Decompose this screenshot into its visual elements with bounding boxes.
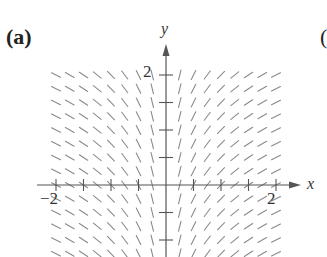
slope-segment [136,167,140,176]
slope-segment [151,194,153,204]
slope-segment [122,236,128,244]
slope-segment [93,196,101,202]
slope-segment [52,128,61,132]
slope-segment [93,113,101,119]
slope-segment [179,139,181,149]
slope-segment [93,127,101,133]
slope-segment [191,222,195,231]
slope-segment [93,154,101,160]
slope-segment [107,154,114,161]
slope-segment [204,167,210,175]
slope-segment [65,224,74,229]
slope-segment [136,236,140,245]
slope-segment [151,125,153,135]
slope-segment [231,196,239,202]
slope-segment [231,141,239,147]
slope-segment [52,210,61,214]
slope-segment [217,85,224,92]
slope-segment [93,237,101,243]
slope-segment [272,142,281,146]
slope-segment [272,128,281,132]
slope-segment [93,99,101,105]
x-axis-label: x [307,175,314,193]
slope-segment [244,86,252,92]
slope-segment [79,210,87,216]
slope-segment [258,169,267,174]
slope-segment [93,223,101,229]
slope-segment [107,168,114,175]
slope-segment [217,140,224,147]
slope-segment [217,71,224,78]
slope-segment [65,155,74,160]
slope-segment [93,168,101,174]
slope-segment [204,140,210,148]
slope-segment [107,126,114,133]
slope-segment [151,235,153,245]
slope-segment [204,154,210,162]
slope-segment [191,153,195,162]
slope-segment [231,72,239,78]
slope-segment [204,195,210,203]
slope-segment [122,85,128,93]
slope-segment [191,249,195,257]
next-panel-label-partial: ( [320,24,327,50]
slope-segment [258,196,267,201]
slope-segment [122,71,128,79]
slope-segment [179,70,181,80]
slope-segment [151,84,153,94]
slope-segment [217,168,224,175]
slope-segment [179,84,181,94]
slope-segment [79,196,87,202]
slope-segment [191,194,195,203]
slope-segment [231,237,239,243]
y-axis-arrow-icon [163,44,170,56]
slope-segment [217,126,224,133]
slope-segment [217,250,224,257]
slope-segment [107,223,114,230]
slope-segment [107,113,114,120]
slope-segment [258,210,267,215]
slope-segment [258,141,267,146]
slope-segment [179,153,181,163]
slope-segment [122,154,128,162]
x-tick-label-2: 2 [267,189,276,209]
slope-segment [217,209,224,216]
slope-segment [107,250,114,257]
slope-segment [244,72,252,78]
slope-segment [244,223,252,229]
slope-segment [107,140,114,147]
slope-segment [65,141,74,146]
slope-segment [191,167,195,176]
slope-segment [79,155,87,161]
slope-segment [204,99,210,107]
slope-segment [272,169,281,173]
slope-segment [244,155,252,161]
slope-segment [272,114,281,118]
slope-segment [151,98,153,108]
slope-segment [52,224,61,228]
slope-segment [231,127,239,133]
slope-segment [258,155,267,160]
slope-segment [204,71,210,79]
slope-segment [65,238,74,243]
slope-segment [79,168,87,174]
slope-segment [244,127,252,133]
slope-segment [204,209,210,217]
slope-segment [204,85,210,93]
slope-segment [52,114,61,118]
slope-segment [204,222,210,230]
slope-segment [151,249,153,257]
slope-segment [136,112,140,121]
slope-segment [107,99,114,106]
slope-segment [231,154,239,160]
slope-segment [204,250,210,257]
slope-segment [244,113,252,119]
slope-segment [136,249,140,257]
slope-segment [217,195,224,202]
slope-segment [79,113,87,119]
slope-segment [52,87,61,91]
slope-segment [244,196,252,202]
slope-segment [258,224,267,229]
slope-segment [272,100,281,104]
